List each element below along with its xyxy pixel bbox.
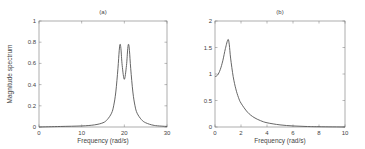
panel-a-ylabel: Magnitude spectrum bbox=[6, 45, 14, 104]
panel-a-xlabel: Frequency (rad/s) bbox=[77, 137, 128, 145]
x-tick-label: 10 bbox=[342, 130, 349, 136]
x-tick-label: 6 bbox=[291, 130, 295, 136]
y-tick-label: 0.5 bbox=[204, 98, 213, 104]
x-tick-label: 8 bbox=[317, 130, 321, 136]
x-tick-label: 0 bbox=[213, 130, 217, 136]
panel-a-curve bbox=[39, 44, 167, 127]
x-tick-label: 30 bbox=[164, 130, 171, 136]
panel-b-title: (b) bbox=[276, 9, 283, 15]
x-tick-label: 4 bbox=[265, 130, 269, 136]
chart-figure: (a) 00.20.40.60.81 0102030 Frequency (ra… bbox=[0, 0, 365, 149]
y-tick-label: 1 bbox=[209, 71, 213, 77]
panel-a: (a) 00.20.40.60.81 0102030 Frequency (ra… bbox=[6, 9, 171, 145]
x-tick-label: 20 bbox=[121, 130, 128, 136]
panel-b-xlabel: Frequency (rad/s) bbox=[254, 137, 305, 145]
y-tick-label: 0 bbox=[33, 124, 37, 130]
y-tick-label: 0.4 bbox=[28, 82, 37, 88]
panel-a-title: (a) bbox=[99, 9, 106, 15]
x-tick-label: 10 bbox=[78, 130, 85, 136]
y-tick-label: 0.6 bbox=[28, 60, 37, 66]
y-tick-label: 1.5 bbox=[204, 45, 213, 51]
y-tick-label: 1 bbox=[33, 18, 37, 24]
panel-b: (b) 00.511.52 0246810 Frequency (rad/s) bbox=[204, 9, 349, 145]
panel-b-plot-box bbox=[215, 21, 345, 127]
y-tick-label: 0.8 bbox=[28, 39, 37, 45]
panel-b-y-ticks: 00.511.52 bbox=[204, 18, 345, 130]
panel-a-y-ticks: 00.20.40.60.81 bbox=[28, 18, 167, 130]
x-tick-label: 0 bbox=[37, 130, 41, 136]
y-tick-label: 2 bbox=[209, 18, 213, 24]
panel-b-curve bbox=[215, 39, 345, 127]
y-tick-label: 0.2 bbox=[28, 103, 37, 109]
x-tick-label: 2 bbox=[239, 130, 243, 136]
panel-a-plot-box bbox=[39, 21, 167, 127]
panel-a-x-ticks: 0102030 bbox=[37, 21, 171, 136]
y-tick-label: 0 bbox=[209, 124, 213, 130]
